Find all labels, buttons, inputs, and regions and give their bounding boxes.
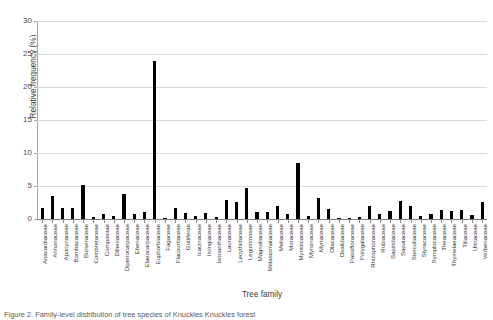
x-label-slot: Flacourtiaceae	[170, 224, 180, 286]
bar-slot	[313, 21, 323, 219]
bar-slot	[354, 21, 364, 219]
x-label-slot: Thymelaeaceae	[446, 224, 456, 286]
bar	[266, 212, 269, 219]
bar-slot	[467, 21, 477, 219]
bar	[81, 185, 84, 219]
bar	[440, 210, 443, 219]
bar-slot	[221, 21, 231, 219]
x-label-slot: Styracaceae	[416, 224, 426, 286]
bar-slot	[139, 21, 149, 219]
x-label-slot: Bombacaceae	[68, 224, 78, 286]
plot-area: 051015202530	[37, 21, 487, 219]
bar-slot	[180, 21, 190, 219]
bar	[460, 210, 463, 219]
bar-slot	[191, 21, 201, 219]
bar-slot	[385, 21, 395, 219]
bar-series	[37, 21, 487, 219]
x-label-slot: Moraceae	[283, 224, 293, 286]
bar	[388, 211, 391, 219]
x-label-slot: Compositae	[98, 224, 108, 286]
x-label-slot: Rubiaceae	[375, 224, 385, 286]
x-label-slot: Tiliaceae	[457, 224, 467, 286]
bar	[215, 217, 218, 219]
bar	[163, 218, 166, 219]
bar-slot	[365, 21, 375, 219]
bar-slot	[426, 21, 436, 219]
bar	[399, 201, 402, 219]
figure-bar-chart: Relative frequency (%) 051015202530 Anac…	[0, 0, 493, 320]
x-label-slot: Myrtaceae	[313, 224, 323, 286]
x-label-slot: Burseraceae	[78, 224, 88, 286]
x-label-slot: Apocynaceae	[57, 224, 67, 286]
x-label-slot: Ulmaceae	[467, 224, 477, 286]
x-label-slot: Icacinaceae	[191, 224, 201, 286]
x-label-slot: Anacardiaceae	[37, 224, 47, 286]
x-label-slot: Symplocaceae	[426, 224, 436, 286]
y-axis-tickmark	[34, 54, 37, 55]
bar-slot	[68, 21, 78, 219]
bar-slot	[109, 21, 119, 219]
x-label-slot: Sapotaceae	[395, 224, 405, 286]
x-label-slot: Combretaceae	[88, 224, 98, 286]
x-label-slot: Sapindaceae	[385, 224, 395, 286]
bar-slot	[47, 21, 57, 219]
bar	[409, 206, 412, 219]
x-label-slot: Annonaceae	[47, 224, 57, 286]
bar-slot	[57, 21, 67, 219]
x-label-slot: Meliaceae	[272, 224, 282, 286]
bar	[194, 216, 197, 219]
bar	[122, 194, 125, 219]
bar-slot	[242, 21, 252, 219]
x-label-slot: Irvingiaceae	[201, 224, 211, 286]
x-axis-title: Tree family	[37, 290, 487, 299]
bar-slot	[477, 21, 487, 219]
bar	[245, 188, 248, 219]
x-label-slot: Passifloraceae	[344, 224, 354, 286]
bar-slot	[293, 21, 303, 219]
bar	[368, 206, 371, 219]
bar-slot	[160, 21, 170, 219]
bar-slot	[98, 21, 108, 219]
bar	[419, 216, 422, 219]
x-label-slot: Dipterocarpaceae	[119, 224, 129, 286]
bar	[204, 213, 207, 219]
x-label-slot: Magnoliaceae	[252, 224, 262, 286]
x-label-slot: Theaceae	[436, 224, 446, 286]
bar	[51, 196, 54, 219]
x-label-slot: Polygalaceae	[354, 224, 364, 286]
bar	[235, 202, 238, 219]
bar-slot	[405, 21, 415, 219]
x-label-slot: Ebenaceae	[129, 224, 139, 286]
bar	[174, 208, 177, 219]
bar	[296, 163, 299, 219]
y-axis-tickmark	[34, 21, 37, 22]
bar-slot	[170, 21, 180, 219]
x-label-slot: Melastomataceae	[262, 224, 272, 286]
bar	[378, 214, 381, 219]
x-label-slot: Elaeocarpaceae	[139, 224, 149, 286]
bar-slot	[375, 21, 385, 219]
bar	[317, 198, 320, 219]
x-label-slot: Euphorbiaceae	[150, 224, 160, 286]
bar	[327, 209, 330, 219]
bar-slot	[457, 21, 467, 219]
bar	[348, 218, 351, 219]
bar	[470, 215, 473, 219]
x-label-slot: Verbenaceae	[477, 224, 487, 286]
bar-slot	[334, 21, 344, 219]
bar	[143, 212, 146, 219]
bar-slot	[211, 21, 221, 219]
bar	[112, 216, 115, 219]
bar-slot	[395, 21, 405, 219]
bar	[276, 206, 279, 219]
bar-slot	[129, 21, 139, 219]
bar	[337, 218, 340, 219]
y-axis-tickmark	[34, 186, 37, 187]
bar	[133, 214, 136, 219]
x-label-slot: Lauraceae	[221, 224, 231, 286]
bar	[450, 211, 453, 219]
x-axis-tick-labels: AnacardiaceaeAnnonaceaeApocynaceaeBombac…	[37, 224, 487, 286]
bar-slot	[416, 21, 426, 219]
bar-slot	[119, 21, 129, 219]
x-label-slot: Myristicaceae	[293, 224, 303, 286]
